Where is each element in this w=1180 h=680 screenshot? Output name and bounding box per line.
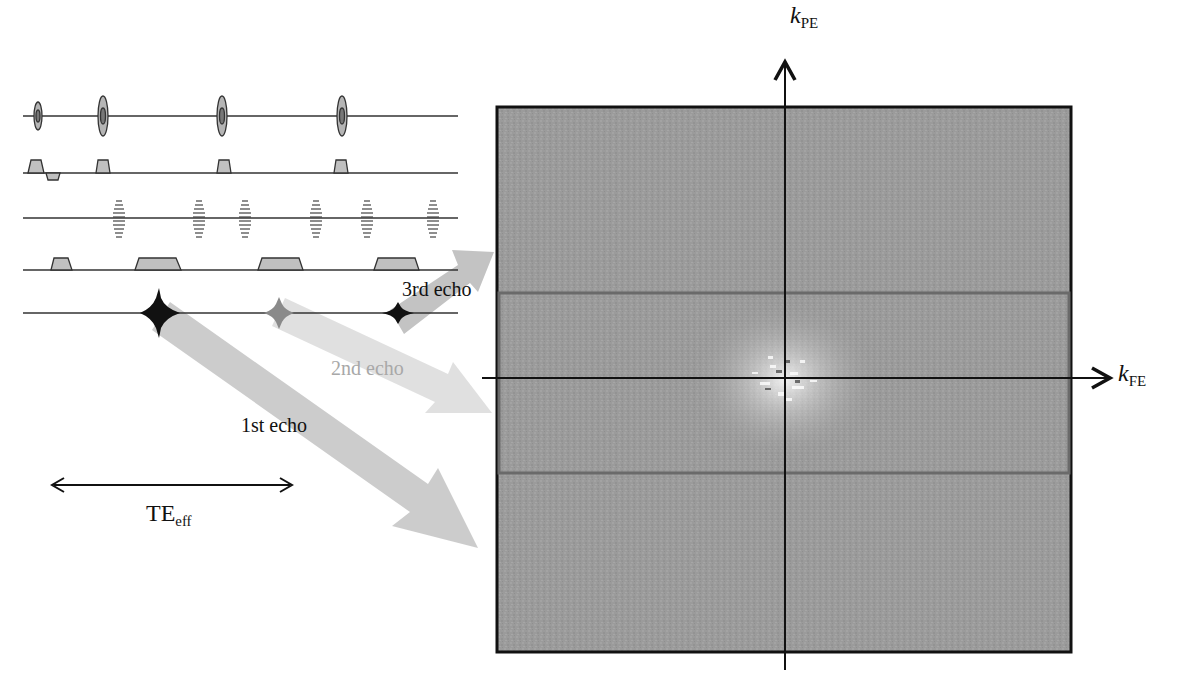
te-eff-label: TEeff [146,500,192,530]
readout-gradients [51,258,419,270]
second-echo-arrow [272,298,492,413]
first-echo-label: 1st echo [241,414,307,437]
kpe-axis-label: kPE [790,2,818,32]
kfe-axis-label: kFE [1118,360,1146,390]
phase-blips [113,201,439,237]
te-eff-arrow [52,478,292,492]
pulse-sequence [23,96,458,313]
slice-gradients [28,160,348,180]
kspace-panel [482,62,1110,670]
third-echo-label: 3rd echo [402,278,471,301]
fse-kspace-diagram: kPE kFE 3rd echo 2nd echo 1st echo TEeff [0,0,1180,680]
second-echo-label: 2nd echo [331,357,404,380]
